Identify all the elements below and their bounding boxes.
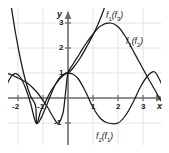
- curve-label-text: f1(f2): [126, 36, 143, 46]
- curve-label-text: f2(f1): [96, 131, 113, 141]
- x-tick-label-neg1: -1: [37, 103, 44, 111]
- y-tick-label-2: 2: [59, 44, 63, 52]
- function-graph-figure: yx-2-1123321-1f1(f3)f1(f2)f2(f1): [0, 0, 169, 153]
- curve-label-text: f1(f3): [106, 10, 123, 20]
- curve-annotation-f1f2: f1(f2): [126, 37, 143, 48]
- x-tick-label-2: 2: [116, 103, 120, 111]
- x-tick-label-1: 1: [91, 103, 95, 111]
- x-tick-label-neg2: -2: [12, 103, 19, 111]
- y-tick-label-3: 3: [59, 19, 63, 27]
- y-tick-label-neg1: -1: [54, 119, 61, 127]
- plot-canvas: [0, 0, 169, 153]
- y-tick-label-1: 1: [59, 69, 63, 77]
- curve-annotation-f1f3: f1(f3): [106, 11, 123, 22]
- curve-annotation-f2f1: f2(f1): [96, 132, 113, 143]
- x-tick-label-3: 3: [141, 103, 145, 111]
- x-axis-label: x: [157, 102, 162, 111]
